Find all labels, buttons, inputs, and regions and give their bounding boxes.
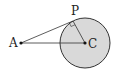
point-c-dot	[83, 41, 86, 44]
point-a-dot	[19, 41, 22, 44]
label-p: P	[71, 4, 79, 18]
label-c: C	[88, 37, 97, 51]
label-a: A	[8, 36, 18, 50]
tangent-diagram: A C P	[0, 0, 118, 80]
